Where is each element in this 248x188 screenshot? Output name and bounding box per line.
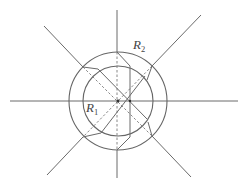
chord-diagonal-b2 (101, 76, 145, 133)
rays (10, 10, 238, 178)
label-r2: R 2 (132, 37, 145, 54)
polygon-right-top-edge (147, 66, 152, 80)
ray-top-left (44, 26, 83, 67)
label-r1: R 1 (85, 100, 98, 117)
ray-bottom-right (152, 136, 191, 177)
label-r2-main: R (132, 37, 141, 52)
center-point-a (117, 100, 120, 103)
label-r1-main: R (85, 100, 94, 115)
label-r1-sub: 1 (94, 107, 98, 117)
polygon-bottom-edge (117, 137, 130, 150)
ray-top-right (152, 15, 201, 66)
geometry-diagram: R 2 R 1 (0, 0, 248, 188)
chord-diagonal-b1 (98, 69, 147, 119)
label-r2-sub: 2 (141, 44, 145, 54)
polygon-top-edge (117, 52, 130, 66)
center-point-b (129, 100, 131, 102)
polygon-left-top-edge (83, 67, 98, 69)
ray-bottom-left (47, 137, 83, 175)
